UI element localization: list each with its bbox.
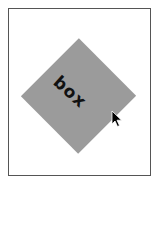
cursor-arrow-icon xyxy=(111,110,123,128)
